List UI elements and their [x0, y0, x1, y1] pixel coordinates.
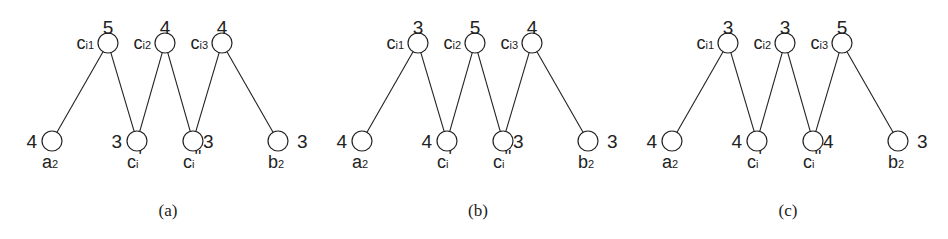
vertex-weight: 3 [297, 131, 308, 152]
vertex-weight: 3 [917, 131, 928, 152]
vertex-weight: 4 [527, 17, 538, 38]
graph-figure: 5ci14ci24ci34a23ci'3ci''3b2(a)3ci15ci24c… [0, 0, 948, 239]
node-label: ci1 [696, 33, 714, 53]
vertex-weight: 4 [646, 131, 657, 152]
panel-a: 5ci14ci24ci34a23ci'3ci''3b2(a) [26, 17, 307, 220]
node-label: ci2 [133, 33, 151, 53]
node-label: ci1 [386, 33, 404, 53]
node-label: ci3 [190, 33, 208, 53]
node-label: ci3 [500, 33, 518, 53]
vertex-weight: 3 [513, 131, 524, 152]
panel-b: 3ci15ci24ci34a24ci'3ci''3b2(b) [336, 17, 617, 220]
vertex-ci-prime [747, 131, 767, 151]
panel-caption: (b) [468, 201, 488, 220]
edge [788, 53, 811, 132]
vertex-ci-prime [127, 131, 147, 151]
vertex-weight: 3 [111, 131, 122, 152]
vertex-weight: 4 [336, 131, 347, 152]
vertex-weight: 3 [413, 17, 424, 38]
node-label: b2 [268, 152, 284, 172]
vertex-a2 [42, 131, 62, 151]
vertex-a2 [662, 131, 682, 151]
vertex-ci-prime [437, 131, 457, 151]
edge [196, 53, 219, 132]
vertex-weight: 4 [731, 131, 742, 152]
node-label: ci2 [753, 33, 771, 53]
vertex-weight: 4 [823, 131, 834, 152]
vertex-weight: 5 [837, 17, 848, 38]
edge [506, 53, 529, 132]
node-label: b2 [578, 152, 594, 172]
edge [816, 53, 839, 132]
edge [421, 53, 444, 132]
edge [168, 53, 191, 132]
edge [367, 52, 413, 133]
edge [478, 53, 501, 132]
vertex-weight: 3 [723, 17, 734, 38]
vertex-weight: 4 [217, 17, 228, 38]
edge [677, 52, 723, 133]
panel-caption: (c) [779, 201, 798, 220]
vertex-weight: 4 [421, 131, 432, 152]
node-label: ci1 [76, 33, 94, 53]
node-label: b2 [888, 152, 904, 172]
edge [227, 52, 273, 133]
vertex-weight: 4 [160, 17, 171, 38]
node-label: ci2 [443, 33, 461, 53]
node-label: a2 [662, 152, 678, 172]
figure: 5ci14ci24ci34a23ci'3ci''3b2(a)3ci15ci24c… [0, 0, 948, 239]
panel-c: 3ci13ci25ci34a24ci'4ci''3b2(c) [646, 17, 927, 220]
edge [731, 53, 754, 132]
vertex-b2 [268, 131, 288, 151]
edge [57, 52, 103, 133]
edge [111, 53, 134, 132]
vertex-weight: 3 [780, 17, 791, 38]
edge [450, 53, 473, 132]
edge [760, 53, 783, 132]
vertex-weight: 3 [607, 131, 618, 152]
node-label: a2 [352, 152, 368, 172]
vertex-b2 [888, 131, 908, 151]
vertex-b2 [578, 131, 598, 151]
edge [847, 52, 893, 133]
vertex-weight: 5 [470, 17, 481, 38]
edge [140, 53, 163, 132]
vertex-a2 [352, 131, 372, 151]
node-label: a2 [42, 152, 58, 172]
node-label: ci3 [810, 33, 828, 53]
panel-caption: (a) [159, 201, 178, 220]
vertex-weight: 3 [203, 131, 214, 152]
vertex-weight: 5 [103, 17, 114, 38]
vertex-weight: 4 [26, 131, 37, 152]
edge [537, 52, 583, 133]
